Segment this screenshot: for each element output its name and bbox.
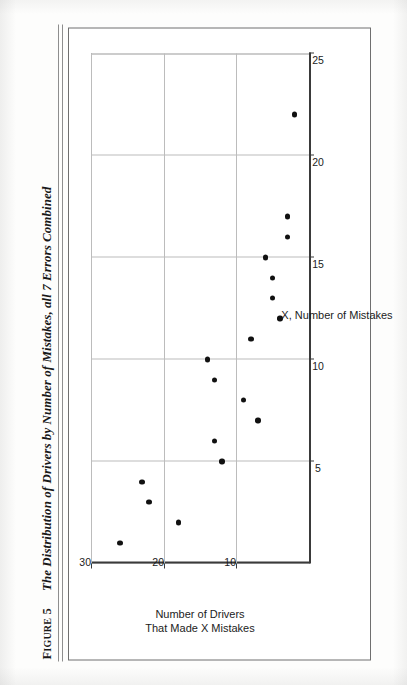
data-point [211,438,216,443]
y-axis-title-line-1: Number of Drivers [145,608,254,622]
data-point [255,418,260,423]
figure-label-rest: IGURE [42,617,53,651]
caption-rule-lower [62,24,63,661]
x-tick-label: 15 [312,257,324,269]
y-axis-title: Number of Drivers That Made X Mistakes [145,608,254,635]
x-gridline [91,358,309,359]
y-tick-label: 30 [79,555,91,567]
data-point [284,214,289,219]
data-point [146,499,151,504]
x-tick [309,460,314,461]
y-axis-line [91,561,310,563]
data-point [139,479,144,484]
figure-label: FIGURE 5 [40,608,54,659]
y-gridline [163,53,164,563]
plot-area [91,53,309,563]
data-point [284,234,289,239]
x-tick-label: 20 [312,155,324,167]
y-axis-title-line-2: That Made X Mistakes [145,621,254,635]
figure-label-number: 5 [40,608,54,614]
x-gridline [91,256,309,257]
scanned-page: FIGURE 5 The Distribution of Drivers by … [0,0,407,685]
data-point [269,295,274,300]
x-axis-title: X, Number of Mistakes [281,308,392,320]
y-gridline [236,53,237,563]
data-point [262,254,267,259]
caption-rule-upper [58,24,59,661]
data-point [204,356,209,361]
data-point [211,377,216,382]
y-tick-label: 10 [224,555,236,567]
y-gridline [91,53,92,563]
x-tick-label: 5 [315,461,321,473]
rotated-page-content: FIGURE 5 The Distribution of Drivers by … [29,20,379,665]
data-point [219,458,224,463]
data-point [240,397,245,402]
data-point [175,520,180,525]
figure-title: The Distribution of Drivers by Number of… [39,186,54,590]
x-tick-label: 25 [312,53,324,65]
figure-label-prefix: F [40,651,54,659]
data-point [269,275,274,280]
x-axis-line [309,52,311,563]
data-point [117,540,122,545]
chart-frame: 510152025102030 X, Number of Mistakes Nu… [68,27,371,660]
x-tick-label: 10 [312,359,324,371]
figure-caption: FIGURE 5 The Distribution of Drivers by … [37,186,55,659]
data-point [248,336,253,341]
y-tick-label: 20 [151,555,163,567]
x-gridline [91,460,309,461]
data-point [291,112,296,117]
x-gridline [91,154,309,155]
